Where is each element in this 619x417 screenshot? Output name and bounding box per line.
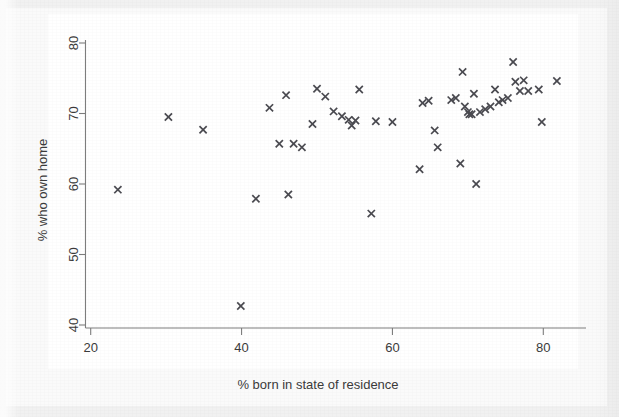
data-point: [114, 186, 121, 193]
y-tick-label: 50: [66, 247, 81, 261]
y-axis-ticks: 4050607080: [66, 36, 87, 332]
data-point: [459, 68, 466, 75]
data-point: [252, 195, 259, 202]
data-point: [538, 118, 545, 125]
data-point: [276, 140, 283, 147]
data-point: [290, 140, 297, 147]
data-point: [491, 86, 498, 93]
data-point: [313, 85, 320, 92]
data-point: [389, 118, 396, 125]
data-point: [372, 118, 379, 125]
data-point: [322, 93, 329, 100]
data-point: [282, 92, 289, 99]
data-point: [425, 97, 432, 104]
data-point: [457, 160, 464, 167]
data-point: [285, 191, 292, 198]
x-axis-ticks: 20406080: [83, 328, 550, 355]
data-point: [470, 90, 477, 97]
data-point: [298, 144, 305, 151]
chart-svg: 4050607080 20406080 % who own home % bor…: [0, 0, 619, 417]
y-tick-label: 40: [66, 318, 81, 332]
y-axis-title: % who own home: [35, 139, 50, 242]
data-point: [525, 87, 532, 94]
data-point: [356, 86, 363, 93]
data-point: [431, 127, 438, 134]
data-point: [352, 117, 359, 124]
x-tick-label: 80: [536, 340, 550, 355]
data-point: [473, 180, 480, 187]
x-tick-label: 20: [83, 340, 97, 355]
scanned-page-background: 4050607080 20406080 % who own home % bor…: [0, 0, 619, 417]
y-tick-label: 80: [66, 36, 81, 50]
x-tick-label: 40: [234, 340, 248, 355]
data-point: [338, 113, 345, 120]
data-point: [309, 120, 316, 127]
scatter-plot-figure: 4050607080 20406080 % who own home % bor…: [0, 0, 619, 417]
data-point: [516, 87, 523, 94]
y-tick-label: 60: [66, 177, 81, 191]
data-point: [165, 113, 172, 120]
data-point: [510, 58, 517, 65]
data-point: [237, 302, 244, 309]
data-point: [553, 77, 560, 84]
data-point: [535, 86, 542, 93]
data-point: [266, 104, 273, 111]
data-point: [434, 144, 441, 151]
data-point: [512, 78, 519, 85]
data-point: [368, 210, 375, 217]
data-point-markers: [114, 58, 560, 309]
data-point: [520, 77, 527, 84]
x-tick-label: 60: [385, 340, 399, 355]
x-axis-title: % born in state of residence: [237, 377, 398, 392]
data-point: [419, 99, 426, 106]
data-point: [199, 126, 206, 133]
y-tick-label: 70: [66, 106, 81, 120]
data-point: [330, 108, 337, 115]
data-point: [416, 166, 423, 173]
